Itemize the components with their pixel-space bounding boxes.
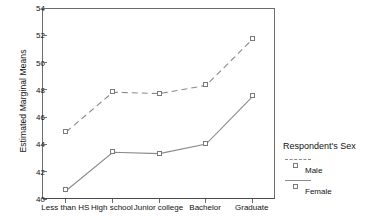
series-line-male (66, 39, 252, 132)
y-tick-mark (43, 62, 47, 63)
y-tick-label: 46 (36, 113, 42, 122)
data-point-marker (63, 129, 68, 134)
chart-root: Estimated Marginal Means 404244464850525… (0, 0, 366, 216)
legend: Respondent's Sex MaleFemale (283, 141, 356, 199)
y-tick-mark (43, 89, 47, 90)
y-tick-label: 44 (36, 140, 42, 149)
legend-item-female[interactable]: Female (283, 178, 356, 199)
plot-inner (43, 9, 274, 198)
y-tick-label: 48 (36, 85, 42, 94)
y-tick-label: 52 (36, 31, 42, 40)
y-tick-mark (43, 144, 47, 145)
y-tick-mark (43, 199, 47, 200)
y-tick-label: 50 (36, 58, 42, 67)
data-point-marker (250, 93, 255, 98)
legend-line-swatch (285, 180, 311, 181)
series-lines (43, 9, 276, 200)
y-axis-title: Estimated Marginal Means (18, 16, 28, 186)
data-point-marker (157, 91, 162, 96)
legend-item-male[interactable]: Male (283, 157, 356, 178)
x-tick-label: Bachelor (189, 203, 221, 212)
data-point-marker (63, 187, 68, 192)
x-tick-label: Junior college (134, 203, 183, 212)
data-point-marker (203, 141, 208, 146)
data-point-marker (250, 36, 255, 41)
legend-marker-icon (293, 184, 298, 189)
data-point-marker (110, 89, 115, 94)
y-tick-mark (43, 171, 47, 172)
legend-title: Respondent's Sex (283, 141, 356, 151)
legend-marker-icon (293, 163, 298, 168)
x-tick-label: Graduate (235, 203, 268, 212)
x-tick-label: High school (91, 203, 133, 212)
y-tick-mark (43, 117, 47, 118)
legend-label: Female (305, 187, 332, 196)
legend-entries: MaleFemale (283, 157, 356, 199)
data-point-marker (110, 149, 115, 154)
y-tick-mark (43, 8, 47, 9)
legend-label: Male (305, 166, 322, 175)
data-point-marker (203, 82, 208, 87)
y-tick-label: 42 (36, 167, 42, 176)
series-line-female (66, 96, 252, 190)
x-tick-label: Less than HS (41, 203, 89, 212)
y-tick-mark (43, 35, 47, 36)
data-point-marker (157, 151, 162, 156)
y-tick-label: 54 (36, 4, 42, 13)
legend-line-swatch (285, 159, 311, 160)
plot-area (42, 8, 275, 199)
